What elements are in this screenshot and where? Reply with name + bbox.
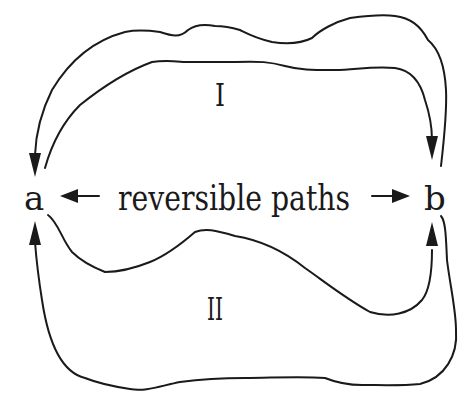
arrow-into-b-from-above-icon [426, 136, 438, 160]
arrow-into-a-from-above-icon [29, 153, 41, 177]
path-I-label: I [215, 76, 225, 114]
arrow-into-b-from-below-icon [426, 222, 438, 246]
path-II-inner-forward [48, 215, 432, 315]
node-b-label: b [424, 178, 446, 218]
reversible-paths-diagram: a b reversible paths I II [0, 0, 467, 397]
path-II-outer-return [35, 216, 456, 390]
arrow-into-a-from-below-icon [29, 221, 41, 245]
path-I-outer-return [35, 15, 446, 166]
arrow-left-to-a-icon [60, 189, 78, 203]
path-II-label: II [207, 290, 223, 328]
node-a-label: a [24, 178, 44, 218]
arrow-right-to-b-icon [392, 189, 410, 203]
path-I-inner-forward [45, 61, 432, 168]
center-label: reversible paths [118, 177, 350, 218]
